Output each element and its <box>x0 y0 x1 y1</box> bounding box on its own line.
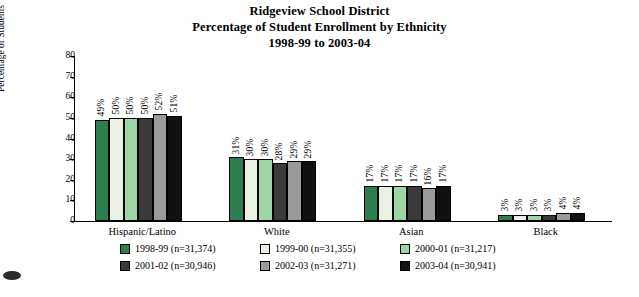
legend-swatch <box>120 244 130 254</box>
legend-item[interactable]: 1999-00 (n=31,355) <box>260 243 400 254</box>
bar <box>229 157 244 221</box>
bar-value-label: 30% <box>260 138 270 156</box>
bar-value-label: 30% <box>246 138 256 156</box>
legend-swatch <box>400 261 410 271</box>
bar <box>244 159 259 221</box>
bar <box>378 186 393 221</box>
legend-swatch <box>260 261 270 271</box>
bar-group: 49%50%50%50%52%51% <box>95 56 182 221</box>
bar-value-label: 31% <box>231 136 241 154</box>
bar <box>109 118 124 221</box>
bar <box>556 213 571 221</box>
y-axis-tick-label: 70 <box>1 72 75 82</box>
bar <box>95 120 110 221</box>
bar-value-label: 16% <box>424 167 434 185</box>
chart-title: Ridgeview School District Percentage of … <box>0 3 639 51</box>
bar <box>364 186 379 221</box>
scan-artifact <box>3 271 21 280</box>
bar-value-label: 17% <box>395 165 405 183</box>
bar-value-label: 17% <box>409 165 419 183</box>
bar <box>571 213 586 221</box>
bar <box>124 118 139 221</box>
y-axis-tick-label: 80 <box>1 51 75 61</box>
y-axis-tick-label: 20 <box>1 175 75 185</box>
y-axis-tick-label: 60 <box>1 92 75 102</box>
y-axis-tick-mark <box>70 118 74 119</box>
bar-value-label: 17% <box>366 165 376 183</box>
chart-title-line-1: Ridgeview School District <box>0 3 639 19</box>
bar-value-label: 3% <box>500 199 510 212</box>
legend-item[interactable]: 2001-02 (n=30,946) <box>120 260 260 271</box>
y-axis-tick-mark <box>70 221 74 222</box>
bar <box>167 116 182 221</box>
legend-label: 1999-00 (n=31,355) <box>275 243 356 254</box>
legend-item[interactable]: 1998-99 (n=31,374) <box>120 243 260 254</box>
chart-legend: 1998-99 (n=31,374)1999-00 (n=31,355)2000… <box>120 243 540 271</box>
y-axis-tick-mark <box>70 56 74 57</box>
bar <box>422 188 437 221</box>
legend-swatch <box>400 244 410 254</box>
bar-value-label: 29% <box>289 140 299 158</box>
bar <box>153 114 168 221</box>
bar-group: 17%17%17%17%16%17% <box>364 56 451 221</box>
y-axis-tick-label: 50 <box>1 113 75 123</box>
y-axis-tick-mark <box>70 97 74 98</box>
bar-value-label: 17% <box>380 165 390 183</box>
legend-label: 2002-03 (n=31,271) <box>275 260 356 271</box>
legend-label: 1998-99 (n=31,374) <box>135 243 216 254</box>
legend-swatch <box>120 261 130 271</box>
bar <box>273 163 288 221</box>
bar <box>258 159 273 221</box>
y-axis-tick-mark <box>70 159 74 160</box>
bar-value-label: 4% <box>558 197 568 210</box>
legend-label: 2003-04 (n=30,941) <box>415 260 496 271</box>
legend-label: 2000-01 (n=31,217) <box>415 243 496 254</box>
bar-value-label: 4% <box>573 197 583 210</box>
x-axis-category-label: Black <box>479 226 614 237</box>
bar-value-label: 50% <box>111 97 121 115</box>
x-axis-category-label: White <box>210 226 345 237</box>
bar <box>302 161 317 221</box>
plot-area: 01020304050607080Hispanic/Latino49%50%50… <box>74 56 612 222</box>
x-axis-category-label: Hispanic/Latino <box>75 226 210 237</box>
y-axis-tick-mark <box>70 77 74 78</box>
bar-value-label: 50% <box>126 97 136 115</box>
y-axis-tick-mark <box>70 180 74 181</box>
bar-value-label: 29% <box>304 140 314 158</box>
bar <box>393 186 408 221</box>
bar-value-label: 51% <box>169 95 179 113</box>
bar <box>498 215 513 221</box>
bar-value-label: 3% <box>515 199 525 212</box>
bar-value-label: 3% <box>529 199 539 212</box>
bar-value-label: 3% <box>544 199 554 212</box>
bar <box>527 215 542 221</box>
bar-group: 3%3%3%3%4%4% <box>498 56 585 221</box>
legend-item[interactable]: 2002-03 (n=31,271) <box>260 260 400 271</box>
bar-value-label: 49% <box>97 99 107 117</box>
bar <box>138 118 153 221</box>
legend-item[interactable]: 2003-04 (n=30,941) <box>400 260 540 271</box>
chart-title-line-3: 1998-99 to 2003-04 <box>0 35 639 51</box>
bar <box>542 215 557 221</box>
y-axis-tick-label: 0 <box>1 216 75 226</box>
bar <box>513 215 528 221</box>
bar <box>407 186 422 221</box>
y-axis-tick-label: 30 <box>1 154 75 164</box>
bar-value-label: 28% <box>275 142 285 160</box>
y-axis-tick-mark <box>70 200 74 201</box>
bar-value-label: 50% <box>140 97 150 115</box>
y-axis-tick-label: 10 <box>1 195 75 205</box>
bar <box>287 161 302 221</box>
enrollment-bar-chart: Ridgeview School District Percentage of … <box>0 0 639 297</box>
bar-value-label: 17% <box>438 165 448 183</box>
y-axis-tick-mark <box>70 139 74 140</box>
bar-value-label: 52% <box>155 93 165 111</box>
bar <box>436 186 451 221</box>
y-axis-tick-label: 40 <box>1 134 75 144</box>
legend-swatch <box>260 244 270 254</box>
bar-group: 31%30%30%28%29%29% <box>229 56 316 221</box>
legend-item[interactable]: 2000-01 (n=31,217) <box>400 243 540 254</box>
x-axis-category-label: Asian <box>344 226 479 237</box>
legend-label: 2001-02 (n=30,946) <box>135 260 216 271</box>
chart-title-line-2: Percentage of Student Enrollment by Ethn… <box>0 19 639 35</box>
